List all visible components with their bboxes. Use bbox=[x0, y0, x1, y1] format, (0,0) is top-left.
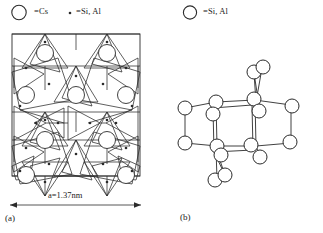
si-al-atom bbox=[218, 168, 232, 182]
si-al-atom bbox=[178, 101, 192, 115]
si-al-site bbox=[102, 163, 105, 166]
legend-si-al-dot-icon bbox=[69, 12, 72, 15]
si-al-site bbox=[115, 122, 118, 125]
si-al-atom bbox=[283, 135, 297, 149]
panel-label-b: (b) bbox=[180, 212, 191, 222]
si-al-site bbox=[106, 41, 109, 44]
si-al-site bbox=[48, 163, 51, 166]
si-al-atom bbox=[214, 148, 228, 162]
si-al-atom bbox=[285, 99, 299, 113]
legend-label-cs: =Cs bbox=[34, 6, 48, 16]
si-al-atom bbox=[206, 107, 220, 121]
legend-label-si-al-panel-b: =Si, Al bbox=[203, 6, 228, 16]
si-al-site bbox=[106, 181, 109, 184]
cs-atom bbox=[68, 87, 85, 104]
si-al-site bbox=[57, 122, 60, 125]
legend-symbols bbox=[0, 0, 323, 26]
si-al-site bbox=[131, 170, 134, 173]
si-al-site bbox=[89, 122, 92, 125]
dimension-arrow bbox=[10, 202, 141, 208]
cs-atom bbox=[37, 45, 54, 62]
si-al-site bbox=[19, 105, 22, 108]
si-al-site bbox=[25, 67, 28, 70]
si-al-atom bbox=[256, 60, 270, 74]
si-al-atom bbox=[244, 138, 258, 152]
si-al-atom bbox=[253, 150, 267, 164]
cs-atom bbox=[99, 45, 116, 62]
panel-b-atoms bbox=[178, 60, 299, 187]
si-al-site bbox=[44, 119, 47, 122]
cs-atom bbox=[37, 132, 54, 149]
figure-root: =Cs =Si, Al =Si, Al bbox=[0, 0, 323, 233]
si-al-site bbox=[35, 122, 38, 125]
si-al-site bbox=[102, 83, 105, 86]
legend-cs-circle-icon bbox=[12, 5, 26, 19]
legend-label-si-al-panel-a: =Si, Al bbox=[76, 6, 101, 16]
si-al-site bbox=[48, 83, 51, 86]
cs-atom bbox=[118, 87, 135, 104]
si-al-site bbox=[44, 41, 47, 44]
cs-atom bbox=[18, 87, 35, 104]
si-al-site bbox=[25, 147, 28, 150]
unit-cell-dimension-label: a=1.37nm bbox=[48, 190, 82, 200]
si-al-site bbox=[44, 181, 47, 184]
panel-b-bonds bbox=[185, 68, 291, 179]
si-al-site bbox=[106, 119, 109, 122]
cs-atom bbox=[99, 132, 116, 149]
legend-si-al-circle-icon bbox=[183, 6, 196, 19]
si-al-site bbox=[125, 147, 128, 150]
si-al-site bbox=[75, 153, 78, 156]
si-al-site bbox=[75, 75, 78, 78]
si-al-atom bbox=[252, 104, 266, 118]
si-al-site bbox=[125, 67, 128, 70]
cs-atom bbox=[118, 167, 135, 184]
panel-b-drawing bbox=[160, 28, 323, 218]
si-al-site bbox=[19, 170, 22, 173]
si-al-site bbox=[131, 105, 134, 108]
cs-atom bbox=[18, 167, 35, 184]
panel-label-a: (a) bbox=[5, 213, 15, 223]
si-al-atom bbox=[178, 136, 192, 150]
